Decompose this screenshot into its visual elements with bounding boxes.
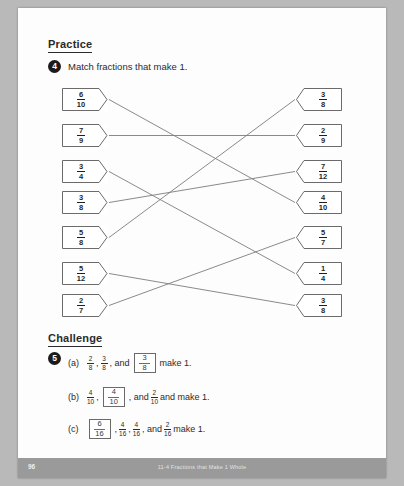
challenge-item-c: (c)616,416,416, and216make 1.	[68, 418, 206, 440]
fraction-tag-right-3[interactable]: 712	[296, 160, 342, 183]
challenge-static-text: ,	[115, 424, 118, 434]
challenge-item-label: (b)	[68, 392, 79, 402]
fraction-tag-left-3[interactable]: 34	[62, 160, 108, 183]
fraction-numerator: 7	[321, 163, 325, 171]
challenge-item-label: (c)	[68, 424, 79, 434]
inline-fraction: 416	[133, 421, 140, 437]
practice-heading: Practice	[48, 38, 92, 53]
fraction-numerator: 4	[321, 194, 325, 202]
answer-box-fraction[interactable]: 410	[103, 387, 125, 407]
challenge-static-text: , and	[129, 392, 149, 402]
fraction-numerator: 2	[79, 297, 83, 305]
fraction-numerator: 1	[321, 265, 325, 273]
challenge-row-content: (b)410,410, and210and make 1.	[68, 386, 211, 408]
fraction-numerator: 6	[79, 91, 83, 99]
inline-fraction: 38	[101, 355, 108, 371]
worksheet-page: Practice 4 Match fractions that make 1. …	[18, 8, 386, 478]
challenge-static-text: make 1.	[160, 358, 192, 368]
connector-line-5	[109, 100, 295, 238]
fraction-denominator: 4	[321, 275, 325, 283]
challenge-static-text: and make 1.	[160, 392, 210, 402]
fraction-denominator: 7	[79, 307, 83, 315]
challenge-row-content: (c)616,416,416, and216make 1.	[68, 418, 206, 440]
fraction-numerator: 5	[79, 229, 83, 237]
fraction-denominator: 8	[321, 101, 325, 109]
connector-line-7	[109, 238, 295, 306]
matching-exercise: 6107934385851227 3829712410571438	[18, 78, 386, 318]
fraction-denominator: 12	[77, 275, 85, 283]
fraction-denominator: 4	[79, 173, 83, 181]
fraction-numerator: 3	[79, 194, 83, 202]
fraction-denominator: 10	[319, 204, 327, 212]
inline-fraction: 28	[87, 355, 94, 371]
challenge-static-text: make 1.	[173, 424, 205, 434]
fraction-tag-right-4[interactable]: 410	[296, 191, 342, 214]
fraction-tag-left-5[interactable]: 58	[62, 226, 108, 249]
fraction-numerator: 3	[321, 91, 325, 99]
question-number-4: 4	[48, 60, 61, 73]
fraction-tag-left-7[interactable]: 27	[62, 294, 108, 317]
fraction-numerator: 3	[321, 297, 325, 305]
fraction-tag-left-6[interactable]: 512	[62, 262, 108, 285]
challenge-static-text: , and	[142, 424, 162, 434]
page-footer: 96 11-4 Fractions that Make 1 Whole	[18, 458, 386, 478]
challenge-row-content: (a)28,38, and38make 1.	[68, 352, 193, 374]
challenge-item-label: (a)	[68, 358, 79, 368]
fraction-numerator: 7	[79, 127, 83, 135]
challenge-static-text: ,	[96, 392, 99, 402]
question-number-5: 5	[48, 352, 61, 365]
challenge-static-text: ,	[128, 424, 131, 434]
challenge-static-text: , and	[110, 358, 130, 368]
fraction-tag-left-2[interactable]: 79	[62, 124, 108, 147]
footer-title: 11-4 Fractions that Make 1 Whole	[18, 464, 386, 470]
fraction-tag-left-1[interactable]: 610	[62, 88, 108, 111]
fraction-numerator: 3	[79, 163, 83, 171]
fraction-denominator: 8	[79, 239, 83, 247]
answer-box-fraction[interactable]: 616	[89, 419, 111, 439]
inline-fraction: 216	[164, 421, 171, 437]
fraction-denominator: 10	[77, 101, 85, 109]
challenge-heading: Challenge	[48, 332, 102, 347]
worksheet-content: Practice 4 Match fractions that make 1. …	[18, 8, 386, 448]
fraction-tag-right-7[interactable]: 38	[296, 294, 342, 317]
inline-fraction: 416	[119, 421, 126, 437]
fraction-denominator: 7	[321, 239, 325, 247]
fraction-tag-right-2[interactable]: 29	[296, 124, 342, 147]
fraction-tag-right-5[interactable]: 57	[296, 226, 342, 249]
fraction-denominator: 8	[79, 204, 83, 212]
fraction-denominator: 9	[321, 137, 325, 145]
answer-box-fraction[interactable]: 38	[134, 353, 156, 373]
challenge-static-text: ,	[96, 358, 99, 368]
fraction-numerator: 5	[79, 265, 83, 273]
fraction-tag-left-4[interactable]: 38	[62, 191, 108, 214]
challenge-item-b: (b)410,410, and210and make 1.	[68, 386, 211, 408]
fraction-denominator: 12	[319, 173, 327, 181]
fraction-numerator: 5	[321, 229, 325, 237]
fraction-tag-right-6[interactable]: 14	[296, 262, 342, 285]
inline-fraction: 210	[151, 389, 158, 405]
connector-line-6	[109, 274, 295, 306]
inline-fraction: 410	[87, 389, 94, 405]
fraction-numerator: 2	[321, 127, 325, 135]
fraction-denominator: 9	[79, 137, 83, 145]
challenge-item-a: (a)28,38, and38make 1.	[68, 352, 193, 374]
fraction-tag-right-1[interactable]: 38	[296, 88, 342, 111]
question-4-instruction: Match fractions that make 1.	[68, 60, 187, 73]
fraction-denominator: 8	[321, 307, 325, 315]
